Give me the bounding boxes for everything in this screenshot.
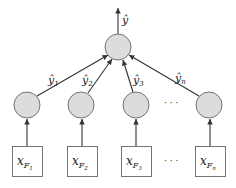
edge-4 — [129, 55, 199, 96]
ellipsis-inputs: · · · — [164, 156, 178, 166]
learner-node-3 — [123, 92, 149, 118]
ensemble-diagram: ŷ ŷ1 ŷ2 ŷ3 ŷn · · · xF1 xF2 xF3 xFn · · … — [0, 0, 236, 188]
output-label: ŷ — [121, 14, 129, 27]
learner-node-2 — [68, 92, 94, 118]
learner-node-1 — [14, 92, 40, 118]
learner-node-4 — [196, 92, 222, 118]
edge-label-4: ŷn — [174, 72, 186, 86]
edge-label-2: ŷ2 — [81, 74, 93, 88]
edge-3 — [123, 60, 133, 92]
edge-label-3: ŷ3 — [132, 74, 144, 88]
edge-label-1: ŷ1 — [47, 74, 59, 88]
ellipsis-nodes: · · · — [164, 98, 178, 108]
aggregator-node — [105, 34, 131, 60]
